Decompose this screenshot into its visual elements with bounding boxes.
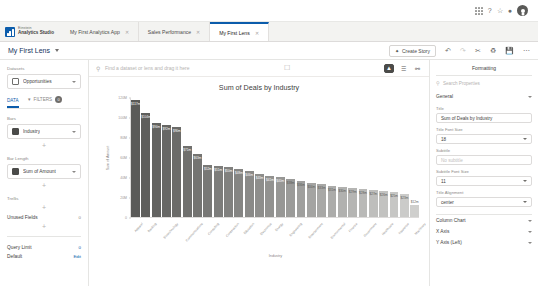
bars-label: Bars — [7, 116, 81, 121]
bar[interactable]: $30m — [338, 187, 347, 217]
tab-filters[interactable]: ▾ FILTERS 0 — [28, 96, 63, 105]
close-icon[interactable]: ✕ — [196, 29, 200, 35]
notifications-icon[interactable]: ● — [508, 7, 512, 14]
bar[interactable]: $12m — [410, 205, 419, 217]
table-view-icon[interactable]: ☰ — [398, 64, 408, 73]
bar[interactable]: $104m — [141, 113, 150, 217]
add-bar-length-field-button[interactable]: + — [7, 182, 81, 189]
bar[interactable]: $50m — [224, 167, 233, 217]
dataset-selector[interactable]: Opportunities — [7, 74, 81, 89]
title-alignment-value: center — [441, 200, 454, 205]
create-story-button[interactable]: ✦ Create Story — [389, 45, 436, 57]
trellis-label: Trellis — [7, 196, 81, 201]
add-bars-field-button[interactable]: + — [7, 142, 81, 149]
bar[interactable]: $117m — [131, 100, 140, 217]
bar-fill — [245, 171, 254, 217]
tab-sales-performance[interactable]: Sales Performance ✕ — [139, 22, 210, 41]
brand-logo-area[interactable]: Einstein Analytics Studio — [0, 22, 61, 41]
expand-icon[interactable]: ☐ — [284, 64, 290, 72]
query-placeholder[interactable]: Find a dataset or lens and drag it here — [105, 65, 190, 71]
add-trellis-field-button[interactable]: + — [7, 204, 81, 211]
accordion-x-axis-label: X Axis — [436, 229, 449, 234]
tab-my-first-analytics-app[interactable]: My First Analytics App ✕ — [61, 22, 139, 41]
bar[interactable]: $46m — [245, 171, 254, 217]
accordion-x-axis[interactable]: X Axis — [436, 226, 532, 237]
undo-icon[interactable]: ↶ — [445, 47, 451, 54]
more-icon[interactable]: ⋯ — [523, 47, 530, 54]
add-unused-field-button[interactable]: + — [7, 223, 81, 230]
bars-field-selector[interactable]: Industry — [7, 124, 81, 139]
accordion-general-label: General — [436, 94, 453, 99]
unused-fields-count: 0 — [79, 215, 81, 220]
subtitle-input[interactable]: No subtitle — [436, 155, 532, 165]
chevron-down-icon[interactable] — [55, 49, 59, 52]
view-switcher: ▲ ☰ ⚯ — [384, 64, 422, 73]
chart-view-icon[interactable]: ▲ — [384, 64, 394, 73]
title-input[interactable]: Sum of Deals by Industry — [436, 113, 532, 123]
accordion-y-axis-left[interactable]: Y Axis (Left) — [436, 237, 532, 248]
bar[interactable]: $52m — [203, 165, 212, 217]
bar[interactable]: $31m — [328, 186, 337, 217]
chevron-down-icon — [72, 81, 76, 83]
share-icon[interactable]: ♻ — [490, 47, 496, 54]
bar[interactable]: $71m — [183, 146, 192, 217]
bar[interactable]: $43m — [255, 174, 264, 217]
bar[interactable]: $40m — [276, 177, 285, 217]
app-launcher-icon[interactable] — [475, 7, 483, 15]
bar[interactable]: $51m — [214, 166, 223, 217]
help-icon[interactable]: ? — [488, 7, 492, 14]
accordion-column-chart[interactable]: Column Chart — [436, 215, 532, 226]
bar[interactable]: $94m — [152, 123, 161, 217]
y-axis-tick-label: 0 — [125, 216, 127, 220]
unused-fields-row[interactable]: Unused Fields 0 — [7, 215, 81, 220]
bar[interactable]: $28m — [359, 189, 368, 217]
title-field-label: Title — [436, 106, 532, 111]
bar[interactable]: $27m — [369, 190, 378, 217]
title-font-size-select[interactable]: 18 — [436, 134, 532, 144]
close-icon[interactable]: ✕ — [125, 29, 129, 35]
bar[interactable]: $63m — [193, 154, 202, 217]
bar-length-field-selector[interactable]: Sum of Amount — [7, 164, 81, 179]
bar[interactable]: $92m — [162, 125, 171, 217]
bar-fill — [203, 165, 212, 217]
bar[interactable]: $90m — [172, 127, 181, 217]
subtitle-field-label: Subtitle — [436, 148, 532, 153]
accordion-general[interactable]: General — [436, 91, 532, 102]
bar[interactable]: $26m — [379, 191, 388, 217]
query-bar: ⚲ Find a dataset or lens and drag it her… — [89, 60, 429, 77]
bar[interactable]: $29m — [348, 188, 357, 217]
title-alignment-select[interactable]: center — [436, 197, 532, 207]
redo-icon[interactable]: ↷ — [460, 47, 466, 54]
tab-my-first-lens[interactable]: My First Lens ✕ — [210, 22, 269, 41]
bar[interactable]: $33m — [317, 184, 326, 217]
query-view-icon[interactable]: ⚯ — [412, 64, 422, 73]
bar-length-label: Bar Length — [7, 156, 81, 161]
bar[interactable]: $25m — [390, 192, 399, 217]
bar-data-label: $51m — [214, 168, 223, 172]
clip-icon[interactable]: ✂ — [475, 47, 481, 54]
tab-data[interactable]: DATA — [7, 98, 19, 108]
save-icon[interactable]: 💾 — [505, 47, 514, 54]
search-properties-field[interactable]: ⚲ Search Properties — [436, 76, 532, 91]
user-avatar[interactable] — [517, 5, 528, 16]
title-alignment-label: Title Alignment — [436, 190, 532, 195]
bar-data-label: $34m — [307, 185, 316, 189]
bar-data-label: $63m — [193, 156, 202, 160]
bar-fill — [183, 146, 192, 217]
bar[interactable]: $48m — [234, 169, 243, 217]
subtitle-font-size-select[interactable]: 11 — [436, 176, 532, 186]
bar[interactable]: $38m — [286, 179, 295, 217]
bar[interactable]: $41m — [265, 176, 274, 217]
favorites-icon[interactable]: ☆ — [497, 7, 503, 14]
bar[interactable]: $34m — [307, 183, 316, 217]
bar[interactable]: $23m — [400, 194, 409, 217]
bar-fill — [265, 176, 274, 217]
edit-mode-link[interactable]: Edit — [73, 254, 81, 259]
bar-fill — [234, 169, 243, 217]
close-icon[interactable]: ✕ — [255, 30, 259, 36]
query-limit-label: Query Limit — [7, 245, 32, 250]
bar[interactable]: $36m — [297, 181, 306, 217]
bar-fill — [255, 174, 264, 217]
chart-plot: Sum of Amount 020M40M60M80M100M120M $117… — [97, 98, 421, 218]
brand-line-2: Analytics Studio — [18, 31, 54, 36]
